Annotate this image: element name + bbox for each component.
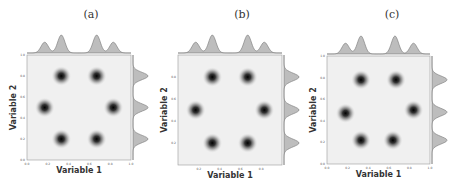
density-mode [336, 103, 356, 123]
y-tick-label: 0.6 [320, 97, 325, 101]
x-tick-label: 0.2 [196, 167, 201, 171]
marginal-y-kde [133, 55, 148, 160]
x-tick-label: 0.4 [66, 162, 71, 166]
y-tick-label: 0.0 [20, 158, 25, 162]
y-tick-label: 1.0 [20, 53, 25, 57]
density-mode [254, 100, 274, 120]
density-mode [87, 66, 107, 86]
joint-plot-a: 0.00.20.40.60.81.00.00.20.40.60.81.0Vari… [9, 35, 148, 175]
y-tick-label: 0.8 [20, 74, 25, 78]
x-tick-label: 0.0 [325, 166, 330, 170]
density-mode [351, 70, 371, 90]
marginal-y-kde [432, 56, 447, 164]
density-mode [383, 130, 403, 150]
y-axis-label: Variable 2 [160, 87, 169, 132]
x-tick-label: 0.2 [45, 162, 50, 166]
marginal-x-kde [178, 35, 282, 53]
density-mode [351, 130, 371, 150]
x-axis-label: Variable 1 [207, 171, 253, 180]
density-mode [186, 100, 206, 120]
y-tick-label: 0.4 [320, 119, 325, 123]
density-mode [51, 66, 71, 86]
density-mode [238, 133, 258, 153]
density-mode [386, 70, 406, 90]
y-axis-label: Variable 2 [9, 85, 18, 130]
density-mode [35, 98, 55, 118]
x-tick-label: 1.0 [129, 162, 134, 166]
y-tick-label: 0.8 [320, 76, 325, 80]
x-tick-label: 0.4 [366, 166, 371, 170]
x-tick-label: 0.4 [217, 167, 222, 171]
chart-canvas: 0.00.20.40.60.81.00.00.20.40.60.81.0Vari… [0, 0, 465, 186]
density-mode [202, 133, 222, 153]
x-tick-label: 1.0 [428, 166, 433, 170]
joint-plot-c: 0.00.20.40.60.81.00.00.20.40.60.81.0Vari… [309, 36, 447, 179]
x-axis-label: Variable 1 [56, 166, 102, 175]
y-tick-label: 0.6 [20, 95, 25, 99]
y-tick-label: 0.0 [320, 162, 325, 166]
density-mode [404, 100, 424, 120]
x-tick-label: 0.6 [238, 167, 243, 171]
density-mode [238, 67, 258, 87]
marginal-x-kde [27, 35, 131, 53]
y-tick-label: 0.8 [171, 75, 176, 79]
y-axis-label: Variable 2 [309, 87, 318, 132]
marginal-x-kde [327, 36, 430, 54]
x-tick-label: 0.8 [108, 162, 113, 166]
density-mode [87, 129, 107, 149]
x-tick-label: 0.8 [407, 166, 412, 170]
y-tick-label: 0.2 [20, 137, 25, 141]
density-mode [103, 98, 123, 118]
x-tick-label: 0.6 [87, 162, 92, 166]
x-axis-label: Variable 1 [356, 170, 402, 179]
joint-plot-b: 0.20.40.60.80.20.40.60.8Variable 1Variab… [160, 35, 299, 180]
marginal-y-kde [284, 55, 299, 165]
x-tick-label: 0.2 [345, 166, 350, 170]
y-tick-label: 0.4 [20, 116, 25, 120]
x-tick-label: 0.0 [25, 162, 30, 166]
x-tick-label: 0.6 [386, 166, 391, 170]
x-tick-label: 0.8 [259, 167, 264, 171]
y-tick-label: 0.6 [171, 97, 176, 101]
y-tick-label: 0.2 [320, 140, 325, 144]
density-mode [51, 129, 71, 149]
y-tick-label: 0.2 [171, 141, 176, 145]
density-mode [202, 67, 222, 87]
y-tick-label: 0.4 [171, 119, 176, 123]
y-tick-label: 1.0 [320, 54, 325, 58]
